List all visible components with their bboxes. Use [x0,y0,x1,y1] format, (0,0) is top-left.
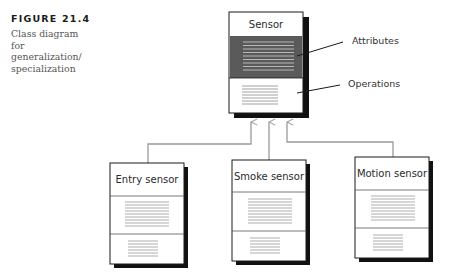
annotation-operations: Operations [297,78,400,93]
class-name: Smoke sensor [234,171,305,182]
class-box-entry-sensor: Entry sensor [110,163,188,268]
connector-motion [287,122,393,157]
class-box-motion-sensor: Motion sensor [355,157,433,262]
class-name: Motion sensor [357,168,428,179]
annotation-label: Operations [348,78,400,89]
class-diagram: Sensor Attributes Operat [0,0,460,279]
class-box-smoke-sensor: Smoke sensor [232,160,310,265]
class-name: Entry sensor [116,174,180,185]
class-box-sensor: Sensor [229,12,309,118]
connector-entry [148,122,251,163]
class-name: Sensor [249,19,284,30]
annotation-label: Attributes [352,35,399,46]
operation-lines [242,86,278,104]
annotation-attributes: Attributes [297,35,399,56]
